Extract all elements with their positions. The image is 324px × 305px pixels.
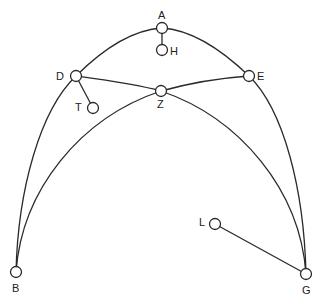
node-z bbox=[156, 86, 167, 97]
label-h: H bbox=[170, 45, 178, 57]
node-e bbox=[244, 71, 255, 82]
label-d: D bbox=[56, 70, 64, 82]
node-l bbox=[210, 219, 221, 230]
node-d bbox=[71, 71, 82, 82]
label-t: T bbox=[75, 101, 82, 113]
line-l-g bbox=[215, 224, 306, 274]
label-e: E bbox=[257, 70, 264, 82]
outer-arc-bdaeg bbox=[16, 28, 306, 274]
node-g bbox=[301, 269, 312, 280]
node-a bbox=[157, 23, 168, 34]
node-t bbox=[88, 103, 99, 114]
node-b bbox=[11, 267, 22, 278]
arc-e-z-b bbox=[16, 76, 249, 272]
arc-d-z-g bbox=[76, 76, 306, 274]
label-a: A bbox=[158, 9, 166, 21]
label-b: B bbox=[12, 282, 19, 294]
label-g: G bbox=[302, 284, 311, 296]
label-z: Z bbox=[157, 98, 164, 110]
label-l: L bbox=[199, 216, 205, 228]
diagram-canvas: A H D T Z E B G L bbox=[0, 0, 324, 305]
node-h bbox=[157, 45, 168, 56]
